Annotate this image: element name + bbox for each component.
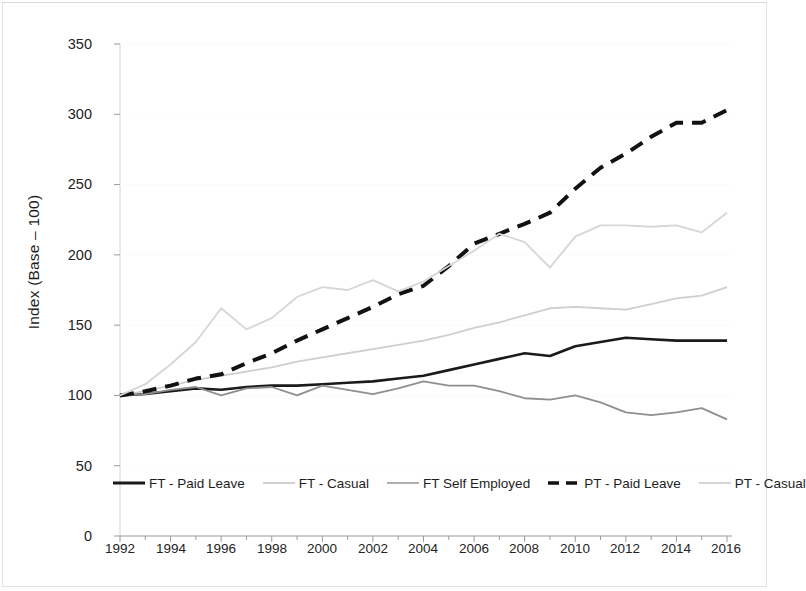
legend-label-ft-self-employed: FT Self Employed bbox=[423, 476, 530, 491]
legend-item-pt-casual[interactable]: PT - Casual bbox=[698, 476, 806, 491]
series-group bbox=[120, 110, 727, 419]
legend-swatch-solid-thin-lightgray-icon bbox=[262, 477, 296, 489]
legend-swatch-dashed-thick-black-icon bbox=[547, 477, 581, 489]
legend-label-pt-paid-leave: PT - Paid Leave bbox=[584, 476, 681, 491]
legend-label-ft-paid-leave: FT - Paid Leave bbox=[149, 476, 245, 491]
series-line-ft-casual bbox=[120, 287, 727, 395]
legend-swatch-solid-thin-gray-icon bbox=[386, 477, 420, 489]
series-line-ft-paid-leave bbox=[120, 338, 727, 396]
legend-swatch-solid-thin-lightgray2-icon bbox=[698, 477, 732, 489]
legend-swatch-solid-thick-black-icon bbox=[112, 477, 146, 489]
series-line-pt-casual bbox=[120, 213, 727, 396]
series-line-ft-self-employed bbox=[120, 381, 727, 419]
axes-group bbox=[114, 44, 732, 542]
chart-legend: FT - Paid Leave FT - Casual FT Self Empl… bbox=[112, 472, 752, 494]
legend-item-ft-casual[interactable]: FT - Casual bbox=[262, 476, 369, 491]
legend-item-pt-paid-leave[interactable]: PT - Paid Leave bbox=[547, 476, 681, 491]
legend-label-ft-casual: FT - Casual bbox=[299, 476, 369, 491]
series-line-pt-paid-leave bbox=[120, 110, 727, 395]
legend-item-ft-paid-leave[interactable]: FT - Paid Leave bbox=[112, 476, 245, 491]
legend-label-pt-casual: PT - Casual bbox=[735, 476, 806, 491]
legend-item-ft-self-employed[interactable]: FT Self Employed bbox=[386, 476, 530, 491]
